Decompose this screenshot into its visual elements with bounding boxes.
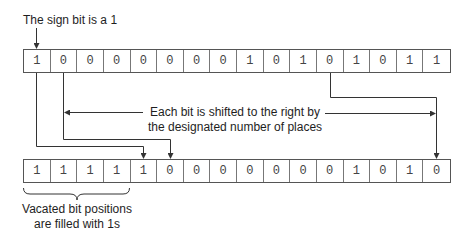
- vacated-label-line1: Vacated bit positions: [16, 202, 138, 216]
- shift-description-line1: Each bit is shifted to the right by: [148, 105, 322, 119]
- bit0-shift-arrow: [37, 73, 144, 158]
- vacated-brace: [24, 188, 130, 200]
- shift-description-line2: the designated number of places: [148, 120, 322, 134]
- vacated-label-line2: are filled with 1s: [16, 217, 138, 231]
- bit11-shift-arrow: [331, 73, 437, 158]
